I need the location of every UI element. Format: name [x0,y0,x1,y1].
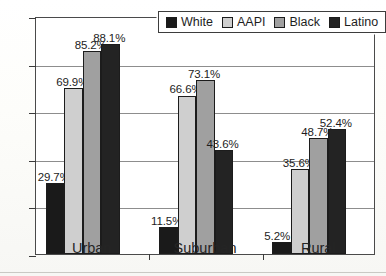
bar-value-label: 43.6% [207,138,239,150]
bar [196,80,215,254]
bar-value-label: 5.2% [264,230,290,242]
legend-item: Latino [329,15,378,29]
x-axis-category-label: Suburban [174,240,237,256]
legend-label: White [181,15,213,29]
plot-area: 020406080100 29.7%69.9%85.2%88.1%11.5%66… [35,17,375,255]
legend-item: White [166,15,213,29]
legend-swatch [274,17,285,28]
bar [309,138,328,254]
bar [101,44,120,254]
x-axis-separator [149,254,150,260]
bar [64,88,83,254]
y-axis-tick [29,256,36,257]
bar [215,150,234,254]
bar-value-label: 73.1% [188,68,220,80]
x-axis-category-label: Urban [72,240,112,256]
bar [83,51,102,254]
legend-item: AAPI [222,15,266,29]
bar-chart: 020406080100 29.7%69.9%85.2%88.1%11.5%66… [0,0,386,276]
y-axis-tick [29,18,36,19]
legend-label: Latino [344,15,378,29]
x-axis-category-label: Rural [301,240,336,256]
x-axis-separator [263,254,264,260]
bar [46,183,65,254]
bar [178,96,197,255]
chart-legend: WhiteAAPIBlackLatino [158,11,386,33]
bar [272,242,291,254]
y-axis-tick [29,161,36,162]
y-axis-tick [29,208,36,209]
bar-value-label: 52.4% [320,117,352,129]
legend-label: AAPI [237,15,266,29]
y-axis-tick [29,113,36,114]
legend-swatch [222,17,233,28]
bar-value-label: 88.1% [93,32,125,44]
legend-swatch [329,17,340,28]
legend-item: Black [274,15,320,29]
bars: 29.7%69.9%85.2%88.1%11.5%66.6%73.1%43.6%… [36,18,374,254]
bar [328,129,347,254]
legend-label: Black [289,15,320,29]
page-rule [0,272,386,273]
legend-swatch [166,17,177,28]
y-axis-tick [29,66,36,67]
